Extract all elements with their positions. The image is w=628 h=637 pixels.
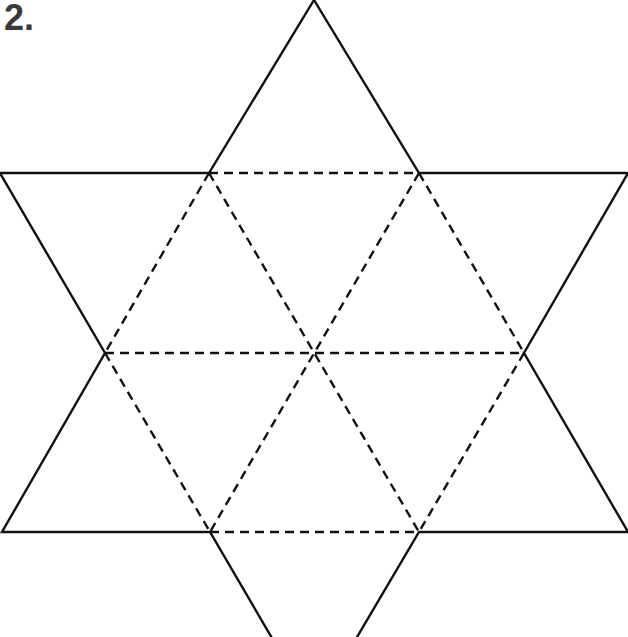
fold-line-lower-right — [419, 353, 524, 532]
star-outline — [0, 0, 628, 637]
fold-line-upper-left — [105, 173, 209, 353]
fold-line-lower-left — [105, 353, 210, 532]
star-net-diagram — [0, 0, 628, 637]
fold-line-upper-right — [419, 173, 524, 353]
fold-lines — [105, 173, 524, 532]
